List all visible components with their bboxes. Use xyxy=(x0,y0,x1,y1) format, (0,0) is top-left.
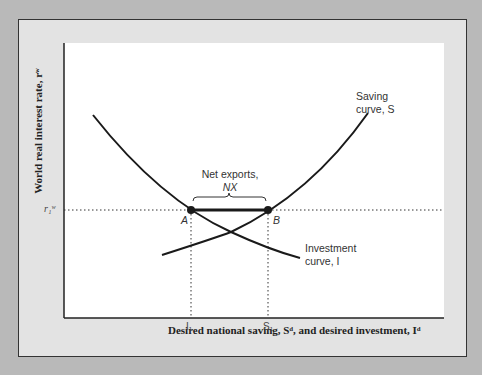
y-tick-r1: r₁ʷ xyxy=(44,203,55,214)
investment-curve-label: Investmentcurve, I xyxy=(305,242,356,268)
nx-brace xyxy=(193,193,266,201)
saving-curve-label: Savingcurve, S xyxy=(356,90,395,116)
point-a-label: A xyxy=(181,214,188,227)
point-b xyxy=(264,206,272,214)
x-tick-s1: S₁ xyxy=(263,321,273,332)
x-axis-label: Desired national saving, Sᵈ, and desired… xyxy=(168,324,420,336)
investment-curve xyxy=(93,115,300,258)
y-axis-label: World real interest rate, rʷ xyxy=(32,31,44,231)
net-exports-label: Net exports,NX xyxy=(200,168,260,194)
point-a xyxy=(187,206,195,214)
point-b-label: B xyxy=(273,214,280,227)
saving-curve xyxy=(162,113,368,255)
x-tick-i1: I₁ xyxy=(186,321,192,332)
